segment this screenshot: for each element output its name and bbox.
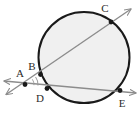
point-dot-A bbox=[23, 82, 28, 87]
point-label-D: D bbox=[36, 92, 44, 104]
point-label-E: E bbox=[119, 97, 126, 109]
point-label-B: B bbox=[28, 60, 35, 72]
point-label-A: A bbox=[16, 67, 24, 79]
point-dot-D bbox=[45, 86, 50, 91]
point-dot-C bbox=[109, 20, 114, 25]
geometry-canvas: A B C D E bbox=[0, 0, 138, 116]
point-dot-E bbox=[118, 88, 123, 93]
point-label-C: C bbox=[101, 2, 108, 14]
geometry-diagram: A B C D E bbox=[0, 0, 138, 116]
circle-shape bbox=[39, 12, 130, 103]
point-dot-B bbox=[38, 72, 43, 77]
